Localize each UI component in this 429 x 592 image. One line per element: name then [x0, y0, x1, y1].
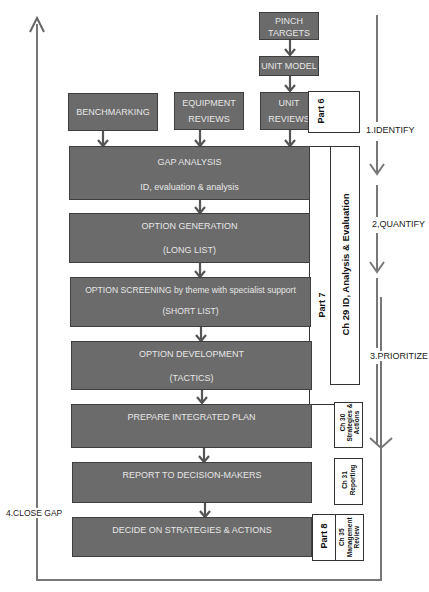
unit-model-box: UNIT MODEL: [259, 56, 319, 76]
chapter-35-line2: Management: [346, 514, 354, 561]
step-title: OPTION GENERATION: [70, 221, 309, 231]
step-title: PREPARE INTEGRATED PLAN: [72, 412, 311, 422]
step-option-generation: OPTION GENERATION (LONG LIST): [69, 213, 310, 263]
step-gap-analysis: GAP ANALYSIS ID, evaluation & analysis: [69, 146, 310, 200]
step-title: OPTION DEVELOPMENT: [72, 349, 311, 359]
chapter-31-label: Ch 31 Reporting: [341, 457, 357, 503]
step-report-to-decision-makers: REPORT TO DECISION-MAKERS: [72, 462, 312, 503]
step-decide-on-strategies: DECIDE ON STRATEGIES & ACTIONS: [72, 517, 312, 557]
part-7-label: Part 7: [317, 281, 327, 329]
chapter-35-box: Ch 35 Management Review: [335, 514, 364, 561]
benchmarking-label: BENCHMARKING: [76, 107, 150, 117]
benchmarking-box: BENCHMARKING: [68, 93, 158, 131]
step-prepare-integrated-plan: PREPARE INTEGRATED PLAN: [71, 404, 312, 448]
step-title: DECIDE ON STRATEGIES & ACTIONS: [73, 525, 311, 535]
step-title: REPORT TO DECISION-MAKERS: [73, 470, 311, 480]
step-subtitle: (LONG LIST): [70, 245, 309, 255]
chapter-35-line1: Ch 35: [338, 514, 346, 561]
phase-quantify-label: 2,QUANTIFY: [372, 219, 425, 229]
chapter-30-label: Ch 30 Strategies & Actions: [339, 400, 360, 446]
step-title: GAP ANALYSIS: [70, 157, 309, 167]
equipment-reviews-line2: REVIEWS: [175, 114, 243, 124]
chapter-35-line3: Review: [353, 514, 361, 561]
part-6-box: Part 6: [308, 91, 360, 133]
pinch-targets-line1: PINCH: [260, 16, 318, 26]
chapter-30-line1: Ch 30: [339, 400, 346, 446]
step-subtitle: (SHORT LIST): [71, 306, 310, 316]
phase-close-gap-label: 4.CLOSE GAP: [6, 508, 62, 518]
step-option-development: OPTION DEVELOPMENT (TACTICS): [71, 341, 312, 390]
chapter-30-box: Ch 30 Strategies & Actions: [334, 402, 363, 448]
chapter-31-box: Ch 31 Reporting: [334, 458, 363, 505]
step-option-screening: OPTION SCREENING by theme with specialis…: [70, 277, 311, 327]
chapter-35-label: Ch 35 Management Review: [338, 514, 361, 561]
equipment-reviews-box: EQUIPMENT REVIEWS: [174, 92, 244, 130]
equipment-reviews-line1: EQUIPMENT: [175, 98, 243, 108]
part-8-label: Part 8: [319, 513, 329, 559]
chapter-29-box: Ch 29 ID, Analysis & Evaluation: [330, 146, 360, 385]
step-subtitle: ID, evaluation & analysis: [70, 182, 309, 192]
chapter-30-line3: Actions: [353, 400, 360, 446]
step-subtitle: (TACTICS): [72, 373, 311, 383]
chapter-30-line2: Strategies &: [346, 400, 353, 446]
unit-model-label: UNIT MODEL: [261, 61, 316, 71]
part-6-label: Part 6: [316, 94, 326, 128]
pinch-targets-box: PINCH TARGETS: [259, 12, 319, 40]
part-8-box: Part 8: [312, 514, 336, 561]
chapter-31-line1: Ch 31: [341, 457, 349, 503]
phase-identify-label: 1.IDENTIFY: [366, 125, 415, 135]
phase-prioritize-label: 3.PRIORITIZE: [370, 351, 428, 361]
step-title: OPTION SCREENING by theme with specialis…: [71, 285, 310, 295]
chapter-29-label: Ch 29 ID, Analysis & Evaluation: [340, 185, 351, 345]
pinch-targets-line2: TARGETS: [260, 28, 318, 38]
chapter-31-line2: Reporting: [349, 457, 357, 503]
